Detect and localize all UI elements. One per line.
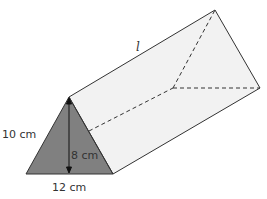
prism-svg: 10 cm 8 cm 12 cm l (0, 0, 267, 199)
base-label: 12 cm (52, 181, 86, 194)
slant-side-label: 10 cm (2, 128, 36, 141)
height-label: 8 cm (71, 149, 98, 162)
prism-diagram: 10 cm 8 cm 12 cm l (0, 0, 267, 199)
length-label: l (136, 40, 140, 54)
